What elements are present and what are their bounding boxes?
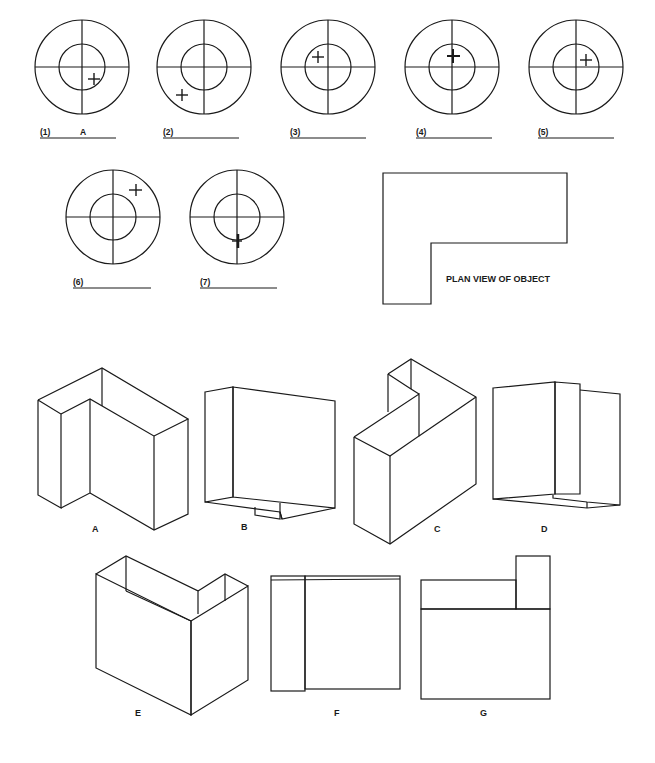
target-2: (2): [157, 20, 251, 138]
crosshair-mark-icon: [232, 234, 242, 248]
view-a: A: [38, 368, 188, 534]
target-5: (5): [529, 20, 623, 138]
crosshair-mark-icon: [312, 51, 324, 63]
target-number: (5): [538, 127, 549, 137]
view-letter: C: [434, 524, 441, 534]
view-letter: D: [541, 524, 548, 534]
view-letter: B: [241, 522, 248, 532]
view-letter: G: [480, 708, 487, 718]
target-number: (1): [40, 127, 51, 137]
view-f: F: [271, 576, 400, 718]
target-number: (2): [163, 127, 174, 137]
target-3: (3): [281, 20, 375, 138]
view-e: E: [96, 556, 248, 718]
plan-view-label: PLAN VIEW OF OBJECT: [446, 274, 551, 284]
l-shape-outline: [383, 173, 567, 304]
target-1: (1) A: [35, 20, 129, 138]
crosshair-mark-icon: [176, 89, 188, 101]
view-letter: E: [135, 708, 141, 718]
target-7: (7): [190, 170, 284, 288]
plan-view: PLAN VIEW OF OBJECT: [383, 173, 567, 304]
target-4: (4): [405, 20, 499, 138]
crosshair-mark-icon: [580, 54, 592, 66]
target-6: (6): [66, 170, 160, 288]
view-d: D: [493, 382, 620, 534]
view-g: G: [421, 556, 550, 718]
orientation-diagram: (1) A (2) (3): [0, 0, 655, 763]
crosshair-mark-icon: [129, 184, 142, 196]
view-c: C: [354, 359, 476, 544]
target-number: (3): [290, 127, 301, 137]
answer-value: A: [80, 127, 86, 137]
target-number: (6): [73, 277, 84, 287]
view-letter: F: [334, 708, 340, 718]
crosshair-mark-icon: [447, 49, 460, 63]
view-letter: A: [92, 524, 99, 534]
target-number: (4): [416, 127, 427, 137]
view-b: B: [205, 387, 335, 532]
target-number: (7): [200, 277, 211, 287]
